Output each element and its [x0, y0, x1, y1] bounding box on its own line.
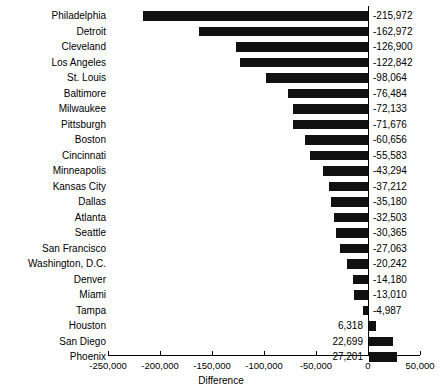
bar: [340, 244, 368, 254]
category-label: Kansas City: [53, 179, 106, 195]
bar-value-label: 27,201: [243, 349, 363, 365]
category-label: Dallas: [78, 194, 106, 210]
category-label: Miami: [79, 287, 106, 303]
bar-value-label: -215,972: [373, 8, 412, 24]
bar-value-label: -76,484: [373, 86, 407, 102]
bar: [266, 73, 368, 83]
category-label: Tampa: [76, 303, 106, 319]
bar-row: Atlanta-32,503: [0, 210, 442, 226]
bar: [363, 306, 368, 316]
bar-row: Detroit-162,972: [0, 24, 442, 40]
category-label: Cincinnati: [62, 148, 106, 164]
category-label: Milwaukee: [59, 101, 106, 117]
bar-value-label: 6,318: [243, 318, 363, 334]
bar-row: Washington, D.C.-20,242: [0, 256, 442, 272]
bar-row: San Francisco-27,063: [0, 241, 442, 257]
category-label: Minneapolis: [53, 163, 106, 179]
bar-value-label: -4,987: [373, 303, 401, 319]
category-label: Detroit: [77, 24, 106, 40]
bar: [369, 321, 376, 331]
bar-row: Boston-60,656: [0, 132, 442, 148]
category-label: Houston: [69, 318, 106, 334]
bar: [293, 104, 368, 114]
bar-value-label: -14,180: [373, 272, 407, 288]
bar-value-label: -55,583: [373, 148, 407, 164]
bar-row: St. Louis-98,064: [0, 70, 442, 86]
category-label: Cleveland: [62, 39, 106, 55]
bar-value-label: -32,503: [373, 210, 407, 226]
bar: [353, 275, 368, 285]
category-label: Pittsburgh: [61, 117, 106, 133]
bar-row: Phoenix27,201: [0, 349, 442, 365]
bar-row: Minneapolis-43,294: [0, 163, 442, 179]
bar: [369, 352, 397, 362]
bar-row: Kansas City-37,212: [0, 179, 442, 195]
bar: [240, 58, 368, 68]
bar-value-label: -162,972: [373, 24, 412, 40]
bar-row: Cleveland-126,900: [0, 39, 442, 55]
bar-row: Miami-13,010: [0, 287, 442, 303]
bar-row: Philadelphia-215,972: [0, 8, 442, 24]
category-label: Boston: [75, 132, 106, 148]
bar-value-label: -98,064: [373, 70, 407, 86]
bar-row: Houston6,318: [0, 318, 442, 334]
bar: [305, 135, 368, 145]
bar-value-label: -37,212: [373, 179, 407, 195]
bar: [199, 27, 368, 37]
bar-value-label: -126,900: [373, 39, 412, 55]
bar-value-label: -43,294: [373, 163, 407, 179]
bar-value-label: -13,010: [373, 287, 407, 303]
category-label: St. Louis: [67, 70, 106, 86]
bar: [331, 197, 368, 207]
bar: [143, 11, 368, 21]
bar-row: Pittsburgh-71,676: [0, 117, 442, 133]
bar: [334, 213, 368, 223]
bar-row: Baltimore-76,484: [0, 86, 442, 102]
bar: [288, 89, 368, 99]
bar-row: Tampa-4,987: [0, 303, 442, 319]
bar: [347, 259, 368, 269]
bar: [293, 120, 368, 130]
bar: [369, 337, 393, 347]
bar-value-label: -60,656: [373, 132, 407, 148]
bar: [310, 151, 368, 161]
bar: [336, 228, 368, 238]
bar-value-label: -72,133: [373, 101, 407, 117]
bar: [354, 290, 368, 300]
category-label: Philadelphia: [52, 8, 107, 24]
category-label: San Diego: [59, 334, 106, 350]
bar: [236, 42, 368, 52]
bar-row: Los Angeles-122,842: [0, 55, 442, 71]
bar-row: Seattle-30,365: [0, 225, 442, 241]
difference-bar-chart: -250,000-200,000-150,000-100,000-50,0000…: [0, 0, 442, 392]
plot-area: -250,000-200,000-150,000-100,000-50,0000…: [0, 0, 442, 392]
category-label: Seattle: [75, 225, 106, 241]
bar-value-label: -30,365: [373, 225, 407, 241]
category-label: Baltimore: [64, 86, 106, 102]
bar-value-label: -27,063: [373, 241, 407, 257]
category-label: Phoenix: [70, 349, 106, 365]
bar-row: Cincinnati-55,583: [0, 148, 442, 164]
bar-row: Dallas-35,180: [0, 194, 442, 210]
category-label: Atlanta: [75, 210, 106, 226]
category-label: Washington, D.C.: [28, 256, 106, 272]
bar-value-label: -71,676: [373, 117, 407, 133]
bar-value-label: 22,699: [243, 334, 363, 350]
x-axis-title: Difference: [0, 375, 442, 386]
bar-row: San Diego22,699: [0, 334, 442, 350]
bar-row: Denver-14,180: [0, 272, 442, 288]
category-label: Denver: [74, 272, 106, 288]
bar-row: Milwaukee-72,133: [0, 101, 442, 117]
bar-value-label: -35,180: [373, 194, 407, 210]
bar-value-label: -20,242: [373, 256, 407, 272]
bar: [329, 182, 368, 192]
category-label: San Francisco: [42, 241, 106, 257]
category-label: Los Angeles: [52, 55, 107, 71]
bar-value-label: -122,842: [373, 55, 412, 71]
bar: [323, 166, 368, 176]
